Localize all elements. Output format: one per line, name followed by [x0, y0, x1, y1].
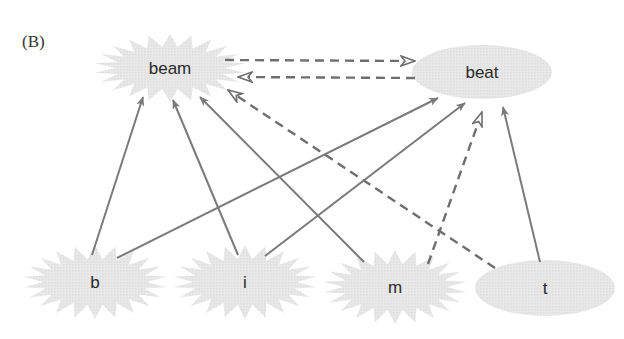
edge-beat-to-beam-dashed [238, 77, 415, 78]
node-label-m: m [388, 278, 402, 297]
word-recognition-diagram: (B) beambeatbimt [0, 0, 624, 339]
node-label-t: t [543, 279, 548, 298]
node-label-beam: beam [149, 59, 192, 78]
panel-label: (B) [22, 32, 45, 51]
node-label-b: b [90, 273, 99, 292]
edge-t-to-beam-dashed [228, 90, 495, 268]
node-label-beat: beat [465, 63, 498, 82]
edge-t-to-beat-solid [503, 107, 540, 262]
edge-beam-to-beat-dashed [225, 60, 415, 61]
edge-i-to-beat-solid [265, 103, 465, 256]
edge-b-to-beam-solid [92, 97, 143, 255]
edge-m-to-beam-solid [200, 97, 364, 262]
node-label-i: i [243, 273, 247, 292]
edge-i-to-beam-solid [173, 100, 238, 255]
